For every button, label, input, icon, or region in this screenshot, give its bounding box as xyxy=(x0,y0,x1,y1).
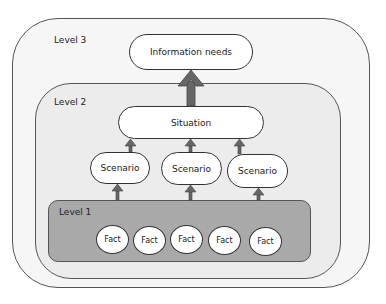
fact-node: Fact xyxy=(249,227,282,256)
scenario-node: Scenario xyxy=(227,154,288,188)
fact-node: Fact xyxy=(96,225,129,254)
scenario-node: Scenario xyxy=(161,152,222,185)
information-needs-node: Information needs xyxy=(129,34,253,70)
fact-node: Fact xyxy=(170,225,203,254)
fact-node: Fact xyxy=(133,226,166,255)
fact-node: Fact xyxy=(208,226,241,255)
situation-node: Situation xyxy=(118,106,264,139)
scenario-node: Scenario xyxy=(90,152,150,184)
big-arrow-icon xyxy=(178,70,204,106)
